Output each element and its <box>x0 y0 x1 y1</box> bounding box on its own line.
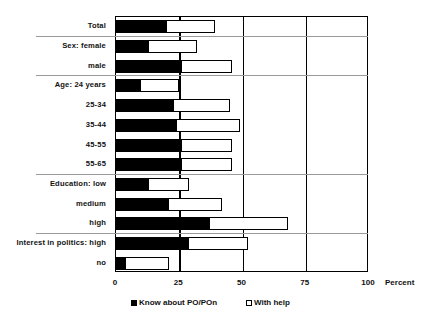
bar-segment-know-about <box>116 139 182 152</box>
bar-row <box>116 60 369 73</box>
bar-row <box>116 257 369 270</box>
category-label: Sex: female <box>0 41 111 50</box>
group-separator <box>36 75 368 76</box>
bar-row <box>116 178 369 191</box>
x-axis-unit-label: Percent <box>385 278 414 287</box>
bar-segment-know-about <box>116 217 210 230</box>
group-separator <box>36 233 368 234</box>
bar-segment-know-about <box>116 257 126 270</box>
category-label: 45-55 <box>0 140 111 149</box>
category-label: 25-34 <box>0 100 111 109</box>
legend-swatch-filled-icon <box>131 300 137 306</box>
bar-row <box>116 40 369 53</box>
bar-row <box>116 139 369 152</box>
bar-row <box>116 198 369 211</box>
category-label: 55-65 <box>0 159 111 168</box>
category-label: Education: low <box>0 179 111 188</box>
legend-label: Know about PO/POn <box>139 298 217 307</box>
category-label-column: TotalSex: femalemaleAge: 24 years25-3435… <box>0 0 111 326</box>
bar-segment-know-about <box>116 60 182 73</box>
bar-segment-know-about <box>116 40 149 53</box>
x-tick-label-25: 25 <box>163 278 193 287</box>
category-label: medium <box>0 199 111 208</box>
legend-swatch-hollow-icon <box>246 300 252 306</box>
bar-segment-know-about <box>116 99 174 112</box>
bar-row <box>116 119 369 132</box>
bar-segment-know-about <box>116 198 169 211</box>
group-separator <box>36 36 368 37</box>
x-tick-label-100: 100 <box>353 278 383 287</box>
category-label: no <box>0 258 111 267</box>
bar-row <box>116 99 369 112</box>
bar-row <box>116 158 369 171</box>
category-label: high <box>0 218 111 227</box>
legend-label: With help <box>254 298 290 307</box>
category-label: Age: 24 years <box>0 80 111 89</box>
x-tick-label-75: 75 <box>290 278 320 287</box>
bar-segment-know-about <box>116 237 189 250</box>
caption-ghost <box>0 318 428 326</box>
bar-segment-know-about <box>116 79 141 92</box>
bar-row <box>116 217 369 230</box>
horizontal-bar-chart: TotalSex: femalemaleAge: 24 years25-3435… <box>0 0 428 326</box>
bar-segment-know-about <box>116 119 177 132</box>
legend-item: Know about PO/POn <box>131 298 217 307</box>
category-label: Interest in politics: high <box>0 238 111 247</box>
category-label: male <box>0 61 111 70</box>
x-tick-label-50: 50 <box>227 278 257 287</box>
bar-segment-know-about <box>116 158 182 171</box>
category-label: 35-44 <box>0 120 111 129</box>
x-tick-label-0: 0 <box>100 278 130 287</box>
bar-segment-know-about <box>116 178 149 191</box>
bar-row <box>116 20 369 33</box>
legend-item: With help <box>246 298 290 307</box>
group-separator <box>36 174 368 175</box>
bar-row <box>116 79 369 92</box>
category-label: Total <box>0 21 111 30</box>
bar-segment-know-about <box>116 20 167 33</box>
bar-row <box>116 237 369 250</box>
